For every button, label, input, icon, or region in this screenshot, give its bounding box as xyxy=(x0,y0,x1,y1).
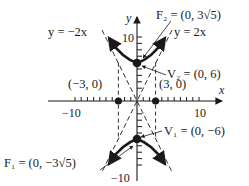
x-tick-pos10: 10 xyxy=(194,106,206,120)
y-tick-pos10: 10 xyxy=(122,31,134,45)
label-focus-f1: F₁ = (0, −3√5) xyxy=(4,156,76,170)
y-axis-label: y xyxy=(125,11,132,25)
y-tick-neg10: −10 xyxy=(111,171,130,185)
vertex-v1 xyxy=(133,135,142,144)
point-neg3-0 xyxy=(115,97,122,104)
label-point-3: (3, 0) xyxy=(159,77,186,91)
label-asymptote-pos: y = 2x xyxy=(174,25,207,39)
label-asymptote-neg: y = −2x xyxy=(48,25,88,39)
x-tick-neg10: −10 xyxy=(62,106,81,120)
point-3-0 xyxy=(152,97,159,104)
x-axis-label: x xyxy=(218,83,225,97)
label-point-neg3: (−3, 0) xyxy=(68,77,102,91)
label-vertex-v1: V₁ = (0, −6) xyxy=(164,124,225,138)
label-focus-f2: F₂ = (0, 3√5) xyxy=(156,8,221,22)
vertex-v2 xyxy=(133,59,142,68)
hyperbola-diagram: x −10 10 y 10 −10 xyxy=(0,0,249,186)
